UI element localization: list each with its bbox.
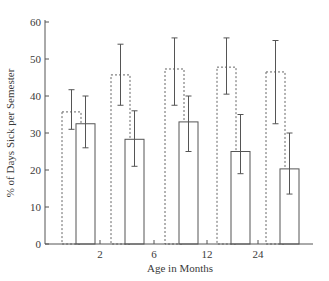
solid-bar bbox=[76, 96, 95, 244]
y-tick-label: 20 bbox=[30, 164, 42, 176]
x-tick-label: 12 bbox=[202, 248, 213, 260]
plot-area bbox=[62, 38, 299, 244]
y-tick-label: 60 bbox=[30, 16, 42, 28]
x-tick-label: 2 bbox=[97, 248, 103, 260]
y-tick-label: 10 bbox=[30, 201, 42, 213]
y-tick-label: 50 bbox=[30, 53, 42, 65]
y-tick-label: 30 bbox=[30, 127, 42, 139]
solid-bar bbox=[231, 115, 250, 245]
y-axis-ticks: 0102030405060 bbox=[30, 16, 49, 250]
solid-bar bbox=[179, 96, 198, 244]
chart: 0102030405060 261224 Age in Months % of … bbox=[0, 0, 329, 281]
y-tick-label: 0 bbox=[36, 238, 42, 250]
y-tick-label: 40 bbox=[30, 90, 42, 102]
x-tick-label: 24 bbox=[253, 248, 265, 260]
x-tick-label: 6 bbox=[151, 248, 157, 260]
y-axis-title: % of Days Sick per Semester bbox=[4, 68, 16, 197]
x-axis-title: Age in Months bbox=[147, 262, 213, 274]
solid-bar bbox=[125, 111, 144, 244]
solid-bar bbox=[280, 133, 299, 244]
